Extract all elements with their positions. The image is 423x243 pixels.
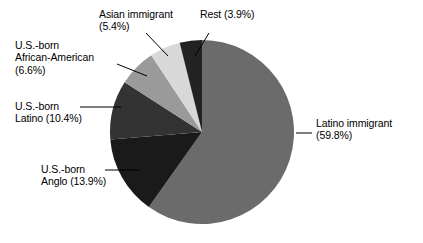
pie-chart: Asian immigrant(5.4%) Rest (3.9%) U.S.-b… — [0, 0, 423, 243]
pie-label-us-born-african-american: U.S.-bornAfrican-American(6.6%) — [15, 39, 94, 76]
pie-label-african-american-line1: U.S.-born — [15, 39, 59, 51]
pie-label-african-american-line2: African-American — [15, 51, 94, 63]
pie-label-us-born-anglo-line1: U.S.-born — [41, 163, 85, 175]
pie-label-latino-immigrant-line2: (59.8%) — [316, 129, 352, 141]
pie-label-us-born-anglo-line2: Anglo (13.9%) — [41, 175, 106, 187]
pie-label-latino-immigrant-line1: Latino immigrant — [316, 117, 392, 129]
pie-label-us-born-latino: U.S.-bornLatino (10.4%) — [15, 100, 82, 125]
pie-label-rest-line1: Rest (3.9%) — [200, 8, 254, 20]
pie-label-us-born-anglo: U.S.-bornAnglo (13.9%) — [41, 163, 106, 188]
pie-label-us-born-latino-line2: Latino (10.4%) — [15, 112, 82, 124]
pie-label-asian-immigrant-line2: (5.4%) — [99, 20, 129, 32]
pie-label-us-born-latino-line1: U.S.-born — [15, 100, 59, 112]
pie-label-asian-immigrant-line1: Asian immigrant — [99, 8, 173, 20]
pie-label-asian-immigrant: Asian immigrant(5.4%) — [99, 8, 173, 33]
pie-label-rest: Rest (3.9%) — [200, 8, 254, 20]
pie-label-african-american-line3: (6.6%) — [15, 64, 45, 76]
pie-label-latino-immigrant: Latino immigrant(59.8%) — [316, 117, 392, 142]
